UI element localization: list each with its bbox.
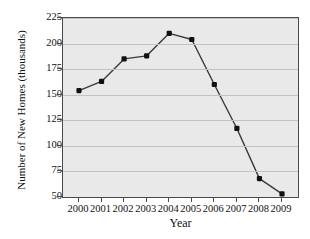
series-line <box>79 33 282 194</box>
gridline <box>63 171 298 172</box>
x-tick-mark <box>146 198 147 202</box>
x-tick-mark <box>281 198 282 202</box>
gridline <box>63 95 298 96</box>
x-tick-mark <box>213 198 214 202</box>
x-tick-mark <box>236 198 237 202</box>
data-point-marker <box>279 191 284 196</box>
x-tick-mark <box>168 198 169 202</box>
x-tick-mark <box>123 198 124 202</box>
y-axis-ticks: 5075100125150175200225 <box>30 17 62 198</box>
x-tick-mark <box>78 198 79 202</box>
gridline <box>63 18 298 19</box>
data-point-marker <box>257 176 262 181</box>
data-point-marker <box>122 56 127 61</box>
data-point-marker <box>167 31 172 36</box>
gridline <box>63 146 298 147</box>
x-axis-ticks: 2000200120022003200420052006200720082009 <box>62 198 299 218</box>
gridline <box>63 69 298 70</box>
data-point-marker <box>99 79 104 84</box>
x-tick-mark <box>191 198 192 202</box>
x-tick-mark <box>101 198 102 202</box>
data-point-marker <box>189 37 194 42</box>
gridline <box>63 120 298 121</box>
data-point-marker <box>234 126 239 131</box>
x-tick-mark <box>258 198 259 202</box>
x-axis-title: Year <box>62 216 299 231</box>
plot-area <box>62 17 299 198</box>
y-axis-title: Number of New Homes (thousands) <box>14 15 28 205</box>
data-point-marker <box>76 88 81 93</box>
x-tick-label: 2009 <box>264 203 298 215</box>
data-point-marker <box>212 82 217 87</box>
gridline <box>63 44 298 45</box>
data-point-marker <box>144 53 149 58</box>
line-chart: Number of New Homes (thousands) 50751001… <box>0 0 310 239</box>
